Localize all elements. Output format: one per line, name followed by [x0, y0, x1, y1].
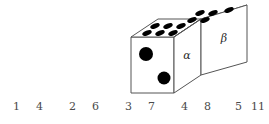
number-row: 14 26 37 48 511 [0, 100, 269, 124]
number-pair: 48 [174, 100, 211, 113]
number-right: 7 [141, 100, 155, 113]
number-right: 4 [29, 100, 43, 113]
pip [139, 47, 153, 61]
figure-root: α β 14 26 37 48 511 [0, 0, 269, 124]
pip [195, 9, 206, 17]
number-pair: 26 [62, 100, 99, 113]
number-pair: 37 [118, 100, 155, 113]
number-pair: 511 [228, 100, 265, 113]
number-left: 3 [118, 100, 132, 113]
beta-label: β [220, 32, 227, 45]
number-left: 4 [174, 100, 188, 113]
number-right: 8 [197, 100, 211, 113]
front-face [131, 37, 174, 93]
number-pair: 14 [6, 100, 43, 113]
pip [158, 72, 171, 85]
number-right: 11 [251, 100, 265, 113]
number-left: 5 [228, 100, 242, 113]
number-right: 6 [85, 100, 99, 113]
number-left: 2 [62, 100, 76, 113]
number-left: 1 [6, 100, 20, 113]
alpha-label: α [183, 49, 191, 62]
